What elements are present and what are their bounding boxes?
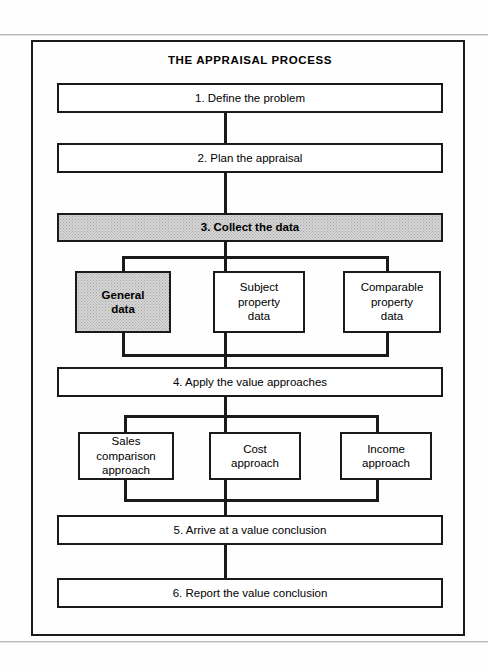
connector-approach-bus-bottom: [124, 499, 379, 502]
connector-approach-income-up: [376, 415, 379, 432]
step-collect-the-data[interactable]: 3. Collect the data: [57, 213, 443, 242]
node-label: General data: [98, 288, 149, 317]
step-arrive-at-a-value-conclusion[interactable]: 5. Arrive at a value conclusion: [57, 515, 443, 545]
connector-approach-sales-up: [124, 415, 127, 432]
connector-data-general-down: [122, 330, 125, 357]
node-sales-comparison-approach[interactable]: Sales comparison approach: [78, 432, 174, 480]
connector-databus-step4: [224, 354, 227, 367]
node-subject-property-data[interactable]: Subject property data: [213, 271, 305, 333]
node-label: Sales comparison approach: [80, 434, 172, 477]
connector-approach-cost-up: [224, 415, 227, 432]
node-general-data[interactable]: General data: [75, 271, 171, 333]
node-label: Cost approach: [227, 442, 283, 471]
connector-data-bus-top: [122, 256, 389, 259]
step-define-the-problem[interactable]: 1. Define the problem: [57, 83, 443, 113]
step-label: 2. Plan the appraisal: [194, 151, 307, 165]
node-label: Income approach: [358, 442, 414, 471]
connector-approach-bus-top: [124, 415, 379, 418]
node-income-approach[interactable]: Income approach: [340, 432, 432, 480]
step-label: 6. Report the value conclusion: [169, 586, 332, 600]
step-label: 3. Collect the data: [197, 220, 303, 234]
step-label: 1. Define the problem: [191, 91, 309, 105]
flowchart-frame: THE APPRAISAL PROCESS: [31, 40, 465, 636]
figure-page: THE APPRAISAL PROCESS: [0, 0, 488, 667]
page-rule-top: [0, 34, 488, 35]
node-comparable-property-data[interactable]: Comparable property data: [343, 271, 441, 333]
node-cost-approach[interactable]: Cost approach: [209, 432, 301, 480]
step-apply-the-value-approaches[interactable]: 4. Apply the value approaches: [57, 367, 443, 397]
step-label: 4. Apply the value approaches: [169, 375, 331, 389]
connector-data-bus-bottom: [122, 354, 389, 357]
connector-data-comparable-down: [386, 330, 389, 357]
step-report-the-value-conclusion[interactable]: 6. Report the value conclusion: [57, 578, 443, 608]
connector-step4-approachbus: [224, 397, 227, 417]
node-label: Comparable property data: [357, 280, 428, 323]
connector-approachbus-step5: [224, 499, 227, 515]
connector-step1-step2: [224, 113, 227, 143]
connector-step5-step6: [224, 545, 227, 578]
page-title: THE APPRAISAL PROCESS: [33, 54, 467, 66]
connector-data-subject-down: [224, 330, 227, 357]
connector-step3-databus: [224, 242, 227, 256]
node-label: Subject property data: [234, 280, 284, 323]
page-rule-bottom: [0, 641, 488, 642]
step-label: 5. Arrive at a value conclusion: [170, 523, 331, 537]
step-plan-the-appraisal[interactable]: 2. Plan the appraisal: [57, 143, 443, 173]
connector-step2-step3: [224, 173, 227, 213]
